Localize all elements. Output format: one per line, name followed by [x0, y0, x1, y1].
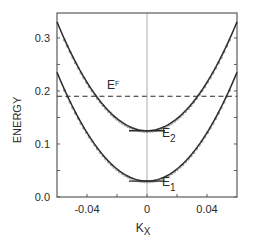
- x-tick-label: 0: [144, 203, 150, 215]
- fermi-level-label: EF: [107, 78, 119, 92]
- x-tick-label: 0.04: [196, 203, 217, 215]
- annotations: EFE2E1: [107, 78, 176, 193]
- y-tick-label: 0.3: [35, 32, 50, 44]
- y-axis: 0.00.10.20.3: [35, 32, 237, 203]
- e2-label: E2: [162, 126, 176, 144]
- x-tick-label: -0.04: [74, 203, 99, 215]
- y-axis-label: ENERGY: [11, 96, 23, 143]
- y-tick-label: 0.2: [35, 85, 50, 97]
- svg-text:KX: KX: [136, 221, 151, 237]
- x-axis-label: KX: [136, 221, 151, 237]
- band-structure-chart: EFE2E1 -0.0400.04 0.00.10.20.3 ENERGY KX: [0, 0, 254, 242]
- y-tick-label: 0.0: [35, 191, 50, 203]
- e1-label: E1: [162, 175, 176, 193]
- reference-lines: [57, 13, 237, 197]
- y-tick-label: 0.1: [35, 138, 50, 150]
